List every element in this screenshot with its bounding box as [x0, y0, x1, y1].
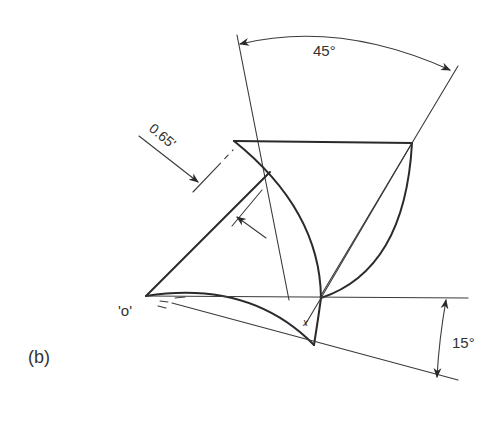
- lower-arc-curve: [314, 298, 321, 345]
- offset-dimension: 0.65': [139, 120, 233, 192]
- panel-label: (b): [28, 347, 50, 367]
- offset-dashed-line: [193, 150, 233, 192]
- x-marker-label: x: [302, 317, 309, 328]
- geometric-construction-diagram: 45° 0.65' x 15° 'o' (b): [0, 0, 501, 421]
- angle-15-arc-arrow: [437, 300, 446, 377]
- angle-15-label: 15°: [452, 334, 475, 351]
- dash-1: [160, 301, 168, 302]
- top-edge: [234, 141, 412, 143]
- left-arc-curve: [234, 141, 321, 298]
- left-edge: [146, 172, 270, 296]
- origin-label: 'o': [118, 302, 132, 319]
- angle-45-label: 45°: [313, 42, 336, 59]
- inclined-reference-line: [172, 303, 458, 380]
- horizontal-reference-line: [146, 296, 468, 298]
- main-outline: [146, 141, 412, 345]
- angle-15-dimension: 15°: [437, 300, 475, 377]
- offset-label: 0.65': [146, 120, 179, 151]
- angle-45-dimension: 45°: [237, 35, 458, 300]
- angle-45-arc-arrow: [240, 36, 450, 70]
- direction-arrow: [237, 217, 266, 238]
- dash-2: [158, 306, 166, 308]
- dash-3: [175, 297, 185, 298]
